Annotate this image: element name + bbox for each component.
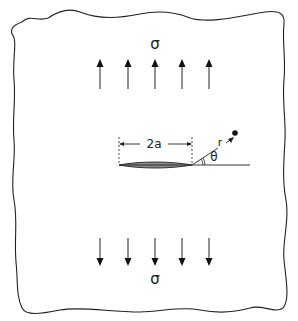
angle-label: θ [210,150,217,164]
arrow-down-4 [179,238,186,266]
dimension-arrowhead-left [119,142,124,146]
tensile-arrows-bottom [97,238,213,266]
arrow-up-1 [97,59,104,89]
angle-arc-inner [201,159,203,165]
crack-length-label: 2a [147,137,162,151]
arrow-up-3 [152,59,159,89]
arrow-down-1 [97,238,104,266]
arrow-down-5 [206,238,213,266]
arrow-up-2 [125,59,132,89]
radius-label: r [218,136,223,149]
dimension-arrowhead-right [187,142,192,146]
arrow-up-5 [206,59,213,89]
field-point [232,130,238,136]
tensile-arrows-top [97,59,213,89]
arrow-down-2 [125,238,132,266]
stress-label-top: σ [150,35,160,53]
arrow-down-3 [152,238,159,266]
stress-label-bottom: σ [150,270,160,288]
crack-diagram: σ σ 2a r θ [0,0,298,321]
arrow-up-4 [179,59,186,89]
radius-arrowhead [228,137,234,143]
